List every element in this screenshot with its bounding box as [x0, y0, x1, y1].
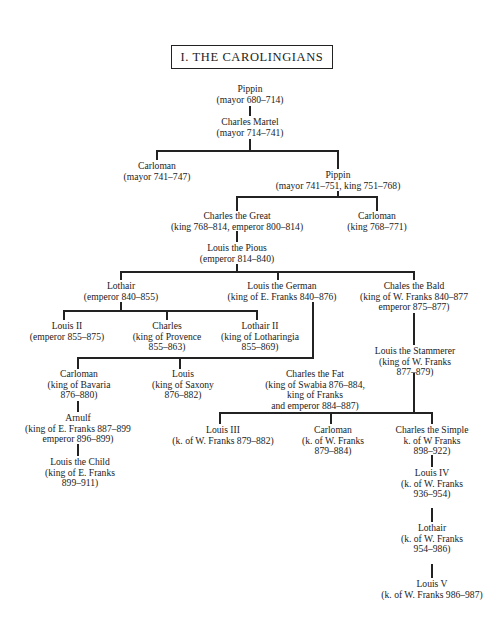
person-reign: (mayor 714–741): [217, 128, 284, 139]
person-reign: (emperor 814–840): [200, 254, 274, 265]
person-carloman-west-franks: Carloman (k. of W. Franks 879–884): [302, 425, 364, 457]
person-name: Lothair: [401, 523, 463, 534]
person-arnulf: Arnulf (king of E. Franks 887–899 empero…: [25, 413, 131, 445]
person-louis-iv: Louis IV (k. of W. Franks 936–954): [401, 468, 463, 500]
person-name: Louis: [152, 369, 214, 380]
person-carloman-king: Carloman (king 768–771): [347, 211, 406, 232]
person-charles-the-simple: Charles the Simple k. of W Franks 898–92…: [395, 425, 468, 457]
person-reign: 936–954): [401, 489, 463, 500]
person-lothair-ii: Lothair II (king of Lotharingia 855–869): [221, 321, 299, 353]
person-louis-the-child: Louis the Child (king of E. Franks 899–9…: [45, 457, 115, 489]
person-reign: (mayor 741–751, king 751–768): [276, 181, 401, 192]
person-louis-the-stammerer: Louis the Stammerer (king of W. Franks 8…: [375, 346, 455, 378]
person-pippin-mayor: Pippin (mayor 680–714): [217, 84, 284, 105]
person-reign: 899–911): [45, 478, 115, 489]
person-name: Arnulf: [25, 413, 131, 424]
person-name: Charles the Simple: [395, 425, 468, 436]
person-reign: emperor 875–877): [360, 302, 468, 313]
person-name: Lothair: [84, 281, 158, 292]
person-lothair: Lothair (emperor 840–855): [84, 281, 158, 302]
person-lothair-west-franks: Lothair (k. of W. Franks 954–986): [401, 523, 463, 555]
person-reign: (k. of W. Franks 986–987): [381, 590, 482, 601]
person-name: Charles: [133, 321, 202, 332]
person-reign: 855–869): [221, 342, 299, 353]
person-name: Louis V: [381, 579, 482, 590]
person-reign: 898–922): [395, 446, 468, 457]
person-louis-iii: Louis III (k. of W. Franks 879–882): [172, 425, 273, 446]
person-louis-saxony: Louis (king of Saxony 876–882): [152, 369, 214, 401]
person-reign: emperor 896–899): [25, 434, 131, 445]
person-reign: and emperor 884–887): [265, 401, 365, 412]
person-reign: (k. of W. Franks 879–882): [172, 436, 273, 447]
person-reign: (king 768–771): [347, 222, 406, 233]
person-name: Pippin: [217, 84, 284, 95]
person-louis-v: Louis V (k. of W. Franks 986–987): [381, 579, 482, 600]
person-charles-martel: Charles Martel (mayor 714–741): [217, 117, 284, 138]
person-louis-ii: Louis II (emperor 855–875): [30, 321, 104, 342]
person-louis-the-german: Louis the German (king of E. Franks 840–…: [228, 281, 337, 302]
person-charles-the-great: Charles the Great (king 768–814, emperor…: [171, 211, 303, 232]
person-reign: (emperor 855–875): [30, 332, 104, 343]
person-carloman-bavaria: Carloman (king of Bavaria 876–880): [48, 369, 111, 401]
person-charles-the-bald: Chales the Bald (king of W. Franks 840–8…: [360, 281, 468, 313]
person-reign: 876–882): [152, 390, 214, 401]
person-name: Chales the Bald: [360, 281, 468, 292]
person-name: Louis the Child: [45, 457, 115, 468]
person-name: Louis the Stammerer: [375, 346, 455, 357]
person-charles-provence: Charles (king of Provence 855–863): [133, 321, 202, 353]
person-name: Louis the Pious: [200, 243, 274, 254]
person-name: Pippin: [276, 170, 401, 181]
person-reign: 954–986): [401, 544, 463, 555]
person-name: Charles the Fat: [265, 369, 365, 380]
person-name: Louis the German: [228, 281, 337, 292]
person-reign: (king of E. Franks 840–876): [228, 292, 337, 303]
person-name: Louis III: [172, 425, 273, 436]
person-reign: (mayor 680–714): [217, 95, 284, 106]
person-reign: (emperor 840–855): [84, 292, 158, 303]
person-pippin-king: Pippin (mayor 741–751, king 751–768): [276, 170, 401, 191]
person-name: Lothair II: [221, 321, 299, 332]
person-name: Charles the Great: [171, 211, 303, 222]
person-name: Carloman: [302, 425, 364, 436]
person-louis-the-pious: Louis the Pious (emperor 814–840): [200, 243, 274, 264]
family-tree-diagram: I. THE CAROLINGIANS Pippin (mayor 680–71…: [0, 0, 500, 621]
person-reign: (mayor 741–747): [124, 172, 191, 183]
person-charles-the-fat: Charles the Fat (king of Swabia 876–884,…: [265, 369, 365, 411]
person-reign: 877–879): [375, 367, 455, 378]
diagram-title: I. THE CAROLINGIANS: [171, 45, 333, 69]
person-reign: 879–884): [302, 446, 364, 457]
person-reign: 876–880): [48, 390, 111, 401]
person-reign: 855–863): [133, 342, 202, 353]
person-carloman-mayor: Carloman (mayor 741–747): [124, 161, 191, 182]
person-name: Louis IV: [401, 468, 463, 479]
person-name: Carloman: [48, 369, 111, 380]
person-name: Carloman: [124, 161, 191, 172]
person-reign: (king 768–814, emperor 800–814): [171, 222, 303, 233]
person-name: Carloman: [347, 211, 406, 222]
person-name: Charles Martel: [217, 117, 284, 128]
person-name: Louis II: [30, 321, 104, 332]
